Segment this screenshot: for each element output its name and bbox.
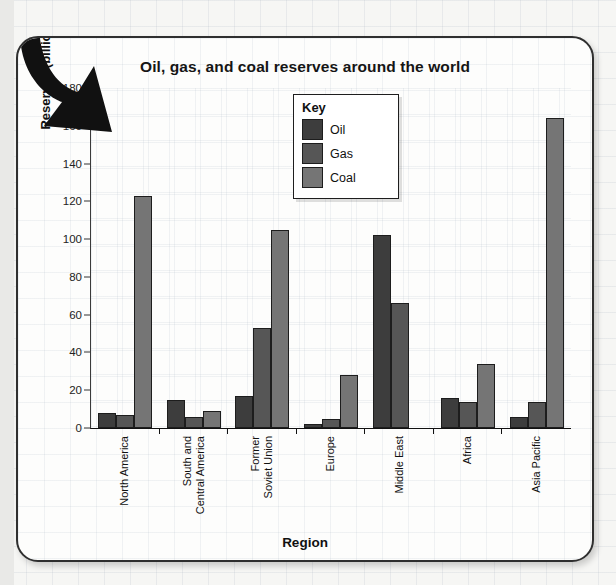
legend-label-coal: Coal bbox=[330, 171, 356, 185]
legend-label-oil: Oil bbox=[330, 123, 345, 137]
bar-group bbox=[228, 88, 297, 428]
bar-gas bbox=[391, 303, 409, 428]
bar-group bbox=[160, 88, 229, 428]
legend-entry-gas: Gas bbox=[302, 143, 390, 164]
bar-gas bbox=[459, 402, 477, 428]
bar-group bbox=[91, 88, 160, 428]
y-axis-tick-140: 140 bbox=[42, 158, 82, 170]
bar-group bbox=[502, 88, 571, 428]
legend-swatch-gas bbox=[302, 143, 323, 164]
bar-oil bbox=[373, 235, 391, 428]
y-axis-tick-40: 40 bbox=[42, 346, 82, 358]
chart-card: Oil, gas, and coal reserves around the w… bbox=[16, 36, 594, 562]
x-axis-tick-label: South andCentral America bbox=[159, 436, 228, 546]
x-axis-tickmark bbox=[433, 428, 434, 434]
y-axis-tick-160: 160 bbox=[42, 120, 82, 132]
page-left-margin-strip bbox=[0, 0, 14, 585]
bar-gas bbox=[185, 417, 203, 428]
bar-coal bbox=[203, 411, 221, 428]
y-axis-ticks: 020406080100120140160180 bbox=[44, 88, 90, 428]
x-axis-tick-label-line1: Former bbox=[249, 436, 262, 498]
bar-coal bbox=[271, 230, 289, 428]
x-axis-tickmark bbox=[227, 428, 228, 434]
y-axis-tick-120: 120 bbox=[42, 195, 82, 207]
x-axis-tickmark bbox=[296, 428, 297, 434]
bar-gas bbox=[322, 419, 340, 428]
y-axis-tick-60: 60 bbox=[42, 309, 82, 321]
y-axis-tick-20: 20 bbox=[42, 384, 82, 396]
bar-oil bbox=[441, 398, 459, 428]
chart-title: Oil, gas, and coal reserves around the w… bbox=[18, 58, 592, 76]
x-axis-tick-label: Middle East bbox=[364, 436, 433, 546]
bar-gas bbox=[253, 328, 271, 428]
y-axis-tick-180: 180 bbox=[42, 82, 82, 94]
legend-key-box: Key OilGasCoal bbox=[293, 94, 399, 199]
bar-group bbox=[434, 88, 503, 428]
x-axis-tickmark bbox=[501, 428, 502, 434]
chart-figure: Oil, gas, and coal reserves around the w… bbox=[18, 38, 592, 560]
bar-coal bbox=[477, 364, 495, 428]
bar-coal bbox=[340, 375, 358, 428]
y-axis-tick-80: 80 bbox=[42, 271, 82, 283]
bar-oil bbox=[167, 400, 185, 428]
x-axis-tick-label: FormerSoviet Union bbox=[227, 436, 296, 546]
x-axis-tick-label-line1: Europe bbox=[324, 436, 337, 471]
legend-entries: OilGasCoal bbox=[302, 119, 390, 188]
bar-coal bbox=[134, 196, 152, 428]
x-axis-tick-label: Asia Pacific bbox=[501, 436, 570, 546]
x-axis-tick-label-line1: South and bbox=[180, 436, 193, 514]
x-axis-tick-label: Africa bbox=[433, 436, 502, 546]
x-axis-tick-label: North America bbox=[90, 436, 159, 546]
x-axis-tick-labels: North AmericaSouth andCentral AmericaFor… bbox=[90, 436, 570, 546]
legend-entry-oil: Oil bbox=[302, 119, 390, 140]
bar-gas bbox=[528, 402, 546, 428]
legend-swatch-oil bbox=[302, 119, 323, 140]
legend-entry-coal: Coal bbox=[302, 167, 390, 188]
x-axis-tick-label-line1: Middle East bbox=[392, 436, 405, 493]
bar-oil bbox=[235, 396, 253, 428]
bar-oil bbox=[304, 424, 322, 428]
x-axis-tick-label: Europe bbox=[296, 436, 365, 546]
bar-oil bbox=[98, 413, 116, 428]
x-axis-tick-label-line1: Africa bbox=[461, 436, 474, 464]
x-axis-tick-label-line2: Central America bbox=[193, 436, 206, 514]
y-axis-tick-100: 100 bbox=[42, 233, 82, 245]
x-axis-label: Region bbox=[18, 535, 592, 550]
x-axis-tick-label-line1: North America bbox=[118, 436, 131, 506]
bar-coal bbox=[546, 118, 564, 428]
y-axis-tick-0: 0 bbox=[42, 422, 82, 434]
x-axis-tickmark bbox=[159, 428, 160, 434]
x-axis-tick-label-line2: Soviet Union bbox=[261, 436, 274, 498]
x-axis-tick-label-line1: Asia Pacific bbox=[530, 436, 543, 493]
legend-swatch-coal bbox=[302, 167, 323, 188]
legend-label-gas: Gas bbox=[330, 147, 353, 161]
bar-oil bbox=[510, 417, 528, 428]
legend-title: Key bbox=[302, 100, 390, 115]
x-axis-tickmark bbox=[364, 428, 365, 434]
bar-gas bbox=[116, 415, 134, 428]
